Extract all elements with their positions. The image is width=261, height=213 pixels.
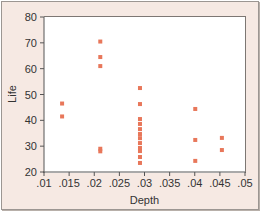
x-tick-label: .01	[36, 177, 51, 189]
data-point	[138, 127, 142, 131]
x-tick-label: .025	[109, 177, 130, 189]
data-point	[98, 64, 102, 68]
data-point	[60, 102, 64, 106]
data-point	[98, 55, 102, 59]
x-tick-label: .015	[58, 177, 79, 189]
y-tick-label: 20	[25, 166, 37, 178]
y-tick-label: 40	[25, 114, 37, 126]
data-point	[193, 138, 197, 142]
x-axis-title: Depth	[130, 194, 159, 206]
data-point	[98, 40, 102, 44]
data-point	[138, 141, 142, 145]
data-point	[138, 86, 142, 90]
x-tick-label: .02	[87, 177, 102, 189]
x-tick-label: .045	[209, 177, 230, 189]
x-tick-label: .04	[187, 177, 202, 189]
y-axis-title: Life	[6, 85, 18, 103]
y-tick-label: 50	[25, 89, 37, 101]
data-point	[138, 161, 142, 165]
data-point	[138, 102, 142, 106]
data-point	[220, 136, 224, 140]
data-point	[138, 155, 142, 159]
data-point	[193, 159, 197, 163]
data-point	[138, 122, 142, 126]
data-point	[193, 107, 197, 111]
data-point	[138, 136, 142, 140]
data-point	[60, 114, 64, 118]
data-points	[60, 40, 224, 165]
data-point	[138, 149, 142, 153]
x-tick-label: .03	[137, 177, 152, 189]
y-tick-label: 70	[25, 37, 37, 49]
scatter-chart: 20304050607080.01.015.02.025.03.035.04.0…	[0, 0, 261, 213]
y-tick-label: 30	[25, 140, 37, 152]
data-point	[138, 132, 142, 136]
x-tick-label: .035	[159, 177, 180, 189]
y-tick-label: 80	[25, 11, 37, 23]
x-tick-label: .05	[237, 177, 252, 189]
data-point	[138, 117, 142, 121]
y-tick-label: 60	[25, 63, 37, 75]
data-point	[220, 148, 224, 152]
data-point	[98, 149, 102, 153]
